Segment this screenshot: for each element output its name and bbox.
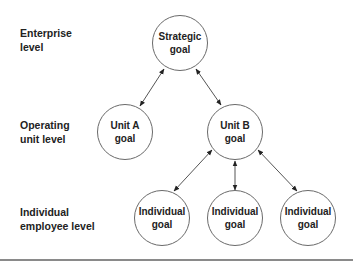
bottom-divider (0, 259, 353, 261)
level-label-line: Operating (20, 118, 70, 132)
node-text: Individual (139, 205, 186, 218)
node-individual-goal-1: Individual goal (134, 190, 190, 246)
level-label-line: employee level (20, 219, 95, 233)
node-text: Individual (212, 205, 259, 218)
level-label-line: Individual (20, 205, 95, 219)
arrow-strategic-unit-a (140, 69, 164, 106)
node-text: Individual (285, 205, 332, 218)
node-unit-b-goal: Unit B goal (207, 104, 263, 160)
level-label-line: unit level (20, 132, 70, 146)
node-text: goal (225, 132, 246, 145)
level-label-line: Enterprise (20, 26, 72, 40)
node-individual-goal-2: Individual goal (207, 190, 263, 246)
level-label-line: level (20, 40, 72, 54)
node-text: Unit A (110, 119, 139, 132)
level-label-individual-employee: Individual employee level (20, 205, 95, 233)
node-text: goal (170, 43, 191, 56)
node-strategic-goal: Strategic goal (152, 15, 208, 71)
node-text: goal (152, 218, 173, 231)
node-text: goal (225, 218, 246, 231)
level-label-enterprise: Enterprise level (20, 26, 72, 54)
level-label-operating-unit: Operating unit level (20, 118, 70, 146)
arrow-unit-b-individual-3 (258, 150, 297, 191)
node-text: goal (115, 132, 136, 145)
node-text: Unit B (220, 119, 249, 132)
node-text: Strategic (159, 30, 202, 43)
arrow-unit-b-individual-1 (174, 150, 212, 191)
node-text: goal (298, 218, 319, 231)
arrow-strategic-unit-b (196, 69, 221, 105)
node-unit-a-goal: Unit A goal (97, 104, 153, 160)
node-individual-goal-3: Individual goal (280, 190, 336, 246)
